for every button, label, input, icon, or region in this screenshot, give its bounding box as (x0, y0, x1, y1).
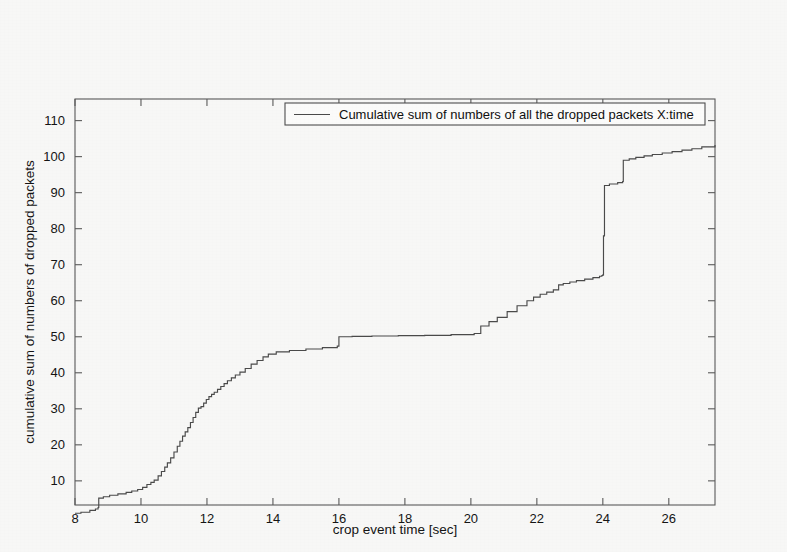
y-tick-label: 40 (51, 365, 65, 380)
y-tick-label: 90 (51, 185, 65, 200)
x-axis-title: crop event time [sec] (333, 522, 458, 537)
y-tick-label: 110 (44, 113, 65, 128)
y-tick-label: 80 (51, 221, 65, 236)
figure-canvas: 102030405060708090100110 810121416182022… (0, 0, 787, 552)
y-axis-ticks: 102030405060708090100110 (43, 113, 715, 488)
y-tick-label: 10 (51, 473, 65, 488)
x-tick-label: 10 (134, 511, 148, 526)
y-tick-label: 50 (51, 329, 65, 344)
plot-axes-frame (75, 99, 715, 505)
y-tick-label: 70 (51, 257, 65, 272)
cumulative-dropped-packets-chart: 102030405060708090100110 810121416182022… (0, 0, 787, 552)
y-tick-label: 60 (51, 293, 65, 308)
data-series-cumulative-sum (75, 145, 715, 513)
x-tick-label: 24 (596, 511, 610, 526)
y-tick-label: 30 (51, 401, 65, 416)
x-tick-label: 22 (530, 511, 544, 526)
x-tick-label: 26 (662, 511, 676, 526)
chart-legend: Cumulative sum of numbers of all the dro… (285, 103, 705, 125)
x-tick-label: 12 (200, 511, 214, 526)
y-axis-title: cumulative sum of numbers of dropped pac… (22, 160, 37, 444)
x-tick-label: 20 (464, 511, 478, 526)
y-tick-label: 20 (51, 437, 65, 452)
x-tick-label: 14 (266, 511, 280, 526)
y-tick-label: 100 (43, 149, 65, 164)
x-axis-ticks: 8101214161820222426 (71, 99, 676, 526)
legend-label-cumulative-sum: Cumulative sum of numbers of all the dro… (339, 107, 694, 122)
